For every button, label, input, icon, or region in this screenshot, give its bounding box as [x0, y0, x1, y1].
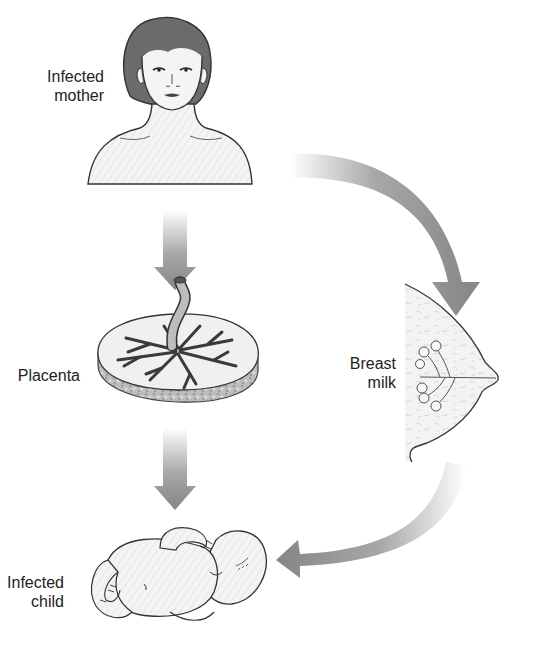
- label-line: Infected: [18, 67, 104, 86]
- label-infected-child: Infected child: [0, 573, 64, 611]
- mother-illustration: [88, 18, 252, 184]
- label-breast-milk: Breast milk: [330, 354, 396, 392]
- label-placenta: Placenta: [0, 366, 80, 385]
- arrow-breast-to-child: [276, 462, 466, 578]
- label-infected-mother: Infected mother: [18, 67, 104, 105]
- label-line: child: [0, 592, 64, 611]
- label-line: Breast: [330, 354, 396, 373]
- arrow-mother-to-breast: [290, 154, 480, 316]
- label-line: mother: [18, 86, 104, 105]
- child-illustration: [92, 528, 267, 621]
- label-line: Infected: [0, 573, 64, 592]
- arrow-placenta-to-child: [154, 428, 196, 510]
- transmission-diagram: Infected mother Placenta Breast milk Inf…: [0, 0, 542, 650]
- label-line: Placenta: [0, 366, 80, 385]
- breast-illustration: [405, 284, 498, 462]
- label-line: milk: [330, 373, 396, 392]
- placenta-illustration: [98, 277, 258, 402]
